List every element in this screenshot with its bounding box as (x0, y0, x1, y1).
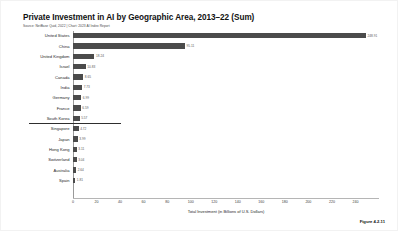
bar-track: 2.64 (73, 165, 379, 175)
bar-value-label: 18.24 (96, 54, 104, 58)
bar-row: United Kingdom18.24 (11, 51, 379, 61)
x-tick-label: 140 (235, 200, 241, 204)
bar-value-label: 6.59 (82, 106, 88, 110)
bar (73, 43, 185, 48)
bar (73, 147, 77, 152)
bar (73, 95, 81, 100)
bar-category-label: France (11, 106, 73, 111)
bar-category-label: Germany (11, 95, 73, 100)
category-separator-rule (29, 123, 121, 124)
x-tick-label: 40 (118, 200, 122, 204)
bar-category-label: Australia (11, 168, 73, 173)
x-tick-label: 100 (188, 200, 194, 204)
bar-track: 3.99 (73, 134, 379, 144)
bar (73, 178, 75, 183)
bar-category-label: China (11, 44, 73, 49)
bar-value-label: 3.99 (79, 137, 85, 141)
x-tick-label: 0 (72, 200, 74, 204)
bar-category-label: India (11, 85, 73, 90)
chart-source: Source: NetBase Quid, 2022 | Chart: 2023… (23, 24, 387, 28)
chart-figure: Private Investment in AI by Geographic A… (0, 0, 398, 231)
bar-row: United States248.91 (11, 31, 379, 41)
bar-value-label: 6.99 (83, 96, 89, 100)
plot-area: United States248.91China95.11United King… (11, 31, 387, 199)
bar (73, 64, 86, 69)
x-tick-label: 220 (329, 200, 335, 204)
x-tick-label: 80 (165, 200, 169, 204)
x-axis-ticks: 020406080100120140160180200220240 (73, 199, 379, 208)
bar (73, 157, 77, 162)
bar-row: Australia2.64 (11, 165, 379, 175)
bar-value-label: 3.11 (78, 147, 84, 151)
figure-number: Figure 4.2.11 (360, 219, 385, 224)
x-tick-label: 180 (282, 200, 288, 204)
x-tick-label: 20 (95, 200, 99, 204)
bar-row: China95.11 (11, 41, 379, 51)
bar-track: 18.24 (73, 51, 379, 61)
bar-category-label: Hong Kong (11, 147, 73, 152)
bar-category-label: Switzerland (11, 157, 73, 162)
chart-title: Private Investment in AI by Geographic A… (23, 13, 387, 22)
x-tick-label: 160 (258, 200, 264, 204)
bar (73, 74, 83, 79)
x-tick-label: 200 (305, 200, 311, 204)
bar-track: 7.73 (73, 82, 379, 92)
bar-value-label: 95.11 (187, 44, 195, 48)
bar-row: Japan3.99 (11, 134, 379, 144)
bar (73, 54, 94, 59)
bar-category-label: Spain (11, 178, 73, 183)
bar-row: France6.59 (11, 103, 379, 113)
bar-value-label: 248.91 (368, 34, 378, 38)
bar-row: Israel10.83 (11, 62, 379, 72)
bar-value-label: 7.73 (84, 85, 90, 89)
bar-row: Spain1.81 (11, 175, 379, 185)
bar-category-label: South Korea (11, 116, 73, 121)
x-tick-label: 120 (211, 200, 217, 204)
bar-row: Switzerland3.04 (11, 155, 379, 165)
bar (73, 85, 82, 90)
bar-category-label: Singapore (11, 126, 73, 131)
bar-category-label: Israel (11, 64, 73, 69)
bar-row: Hong Kong3.11 (11, 144, 379, 154)
bar (73, 126, 79, 131)
bar-track: 6.99 (73, 93, 379, 103)
bar-track: 3.11 (73, 144, 379, 154)
bar-track: 4.72 (73, 124, 379, 134)
bar-row: Canada8.65 (11, 72, 379, 82)
x-tick-label: 240 (352, 200, 358, 204)
bar (73, 33, 366, 38)
bar-value-label: 2.64 (78, 168, 84, 172)
bar-track: 6.59 (73, 103, 379, 113)
bar-category-label: United Kingdom (11, 54, 73, 59)
bar-value-label: 10.83 (87, 65, 95, 69)
bar-category-label: Canada (11, 75, 73, 80)
bar-value-label: 8.65 (85, 75, 91, 79)
x-axis-title: Total Investment (in Billions of U.S. Do… (73, 209, 379, 214)
bar (73, 167, 76, 172)
bar-track: 3.04 (73, 155, 379, 165)
bar-row: Germany6.99 (11, 93, 379, 103)
x-tick-label: 60 (142, 200, 146, 204)
bar-category-label: United States (11, 33, 73, 38)
bar (73, 116, 80, 121)
bar (73, 105, 81, 110)
bar-track: 1.81 (73, 175, 379, 185)
bar-rows: United States248.91China95.11United King… (11, 31, 379, 199)
bar-track: 8.65 (73, 72, 379, 82)
bar-track: 10.83 (73, 62, 379, 72)
bar-value-label: 5.57 (81, 116, 87, 120)
bar-row: Singapore4.72 (11, 124, 379, 134)
bar-value-label: 1.81 (77, 178, 83, 182)
bar-category-label: Japan (11, 137, 73, 142)
bar-value-label: 3.04 (78, 158, 84, 162)
bar-track: 248.91 (73, 31, 379, 41)
bar-value-label: 4.72 (80, 127, 86, 131)
bar (73, 136, 78, 141)
bar-track: 95.11 (73, 41, 379, 51)
bar-row: India7.73 (11, 82, 379, 92)
